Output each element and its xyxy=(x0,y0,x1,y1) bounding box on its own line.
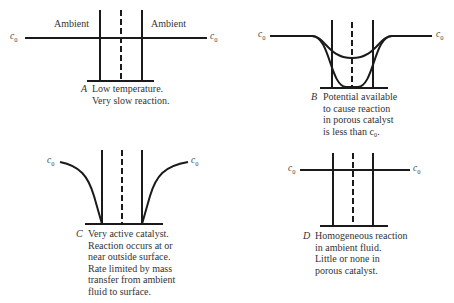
panel-b-c0-left: c0 xyxy=(258,29,265,41)
panel-a-c0-left: c0 xyxy=(10,31,17,43)
panel-b-letter: B xyxy=(311,91,317,103)
panel-a-c0-right: c0 xyxy=(210,31,217,43)
panel-c-c0-left: c0 xyxy=(47,155,54,167)
panel-d-caption: D Homogeneous reaction in ambient fluid.… xyxy=(303,230,453,276)
panel-a-ambient-left: Ambient xyxy=(54,18,89,29)
panel-c-caption: C Very active catalyst. Reaction occurs … xyxy=(76,228,236,297)
panel-b-c0-right: c0 xyxy=(436,29,443,41)
panel-a-letter: A xyxy=(81,83,87,95)
panel-c-profile-right xyxy=(142,162,188,224)
panel-c-profile-left xyxy=(60,162,102,224)
panel-d-c0-right: c0 xyxy=(413,163,420,175)
panel-d-letter: D xyxy=(303,230,310,242)
panel-b-caption: B Potential available to cause reaction … xyxy=(311,91,451,137)
panel-d-c0-left: c0 xyxy=(288,163,295,175)
panel-a-caption: A Low temperature. Very slow reaction. xyxy=(81,83,231,106)
panel-c-letter: C xyxy=(76,228,83,240)
panel-c-graphics xyxy=(60,150,188,224)
panel-a-ambient-right: Ambient xyxy=(151,18,186,29)
panel-c-c0-right: c0 xyxy=(191,155,198,167)
panel-d-graphics xyxy=(300,153,410,226)
panel-b-graphics xyxy=(270,20,432,88)
